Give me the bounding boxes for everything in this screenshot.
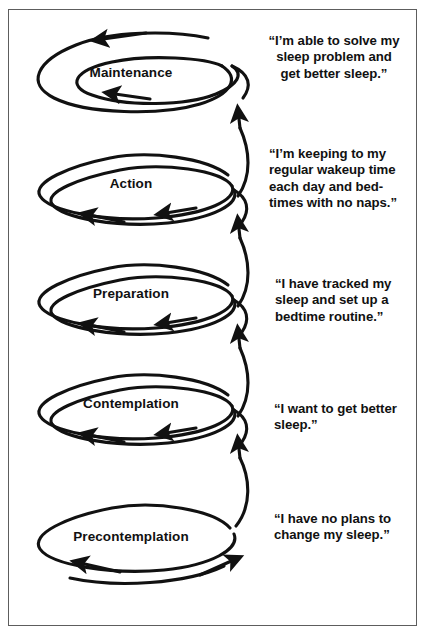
quote-line: “I want to get better: [274, 401, 424, 417]
stage-label-precontemplation: Precontemplation: [73, 529, 189, 544]
stage-label-maintenance: Maintenance: [90, 65, 173, 80]
quote-preparation: “I have tracked my sleep and set up a be…: [275, 276, 423, 325]
quote-line: “I have no plans to: [274, 511, 424, 527]
riser-preparation-to-action: [238, 220, 248, 306]
quote-line: “I have tracked my: [275, 276, 423, 292]
quote-line: “I’m keeping to my: [269, 146, 421, 162]
quote-line: sleep.”: [274, 417, 424, 433]
quote-line: get better sleep.”: [255, 66, 413, 82]
quote-line: “I’m able to solve my: [255, 33, 413, 49]
quote-line: sleep problem and: [255, 49, 413, 65]
quote-line: change my sleep.”: [274, 527, 424, 543]
quote-maintenance: “I’m able to solve my sleep problem and …: [255, 33, 413, 82]
quote-line: each day and bed-: [269, 179, 421, 195]
quote-contemplation: “I want to get better sleep.”: [274, 401, 424, 434]
stage-label-contemplation: Contemplation: [83, 396, 179, 411]
quote-action: “I’m keeping to my regular wakeup time e…: [269, 146, 421, 212]
figure-page: Maintenance Action Preparation Contempla…: [0, 0, 428, 644]
riser-action-to-maintenance: [238, 110, 248, 196]
quote-precontemplation: “I have no plans to change my sleep.”: [274, 511, 424, 544]
quote-line: regular wakeup time: [269, 162, 421, 178]
loop-precontemplation: [38, 505, 238, 583]
stage-label-preparation: Preparation: [93, 286, 169, 301]
riser-precontemplation-to-contemplation: [236, 440, 248, 526]
quote-line: sleep and set up a: [275, 292, 423, 308]
quote-line: bedtime routine.”: [275, 309, 423, 325]
riser-contemplation-to-preparation: [238, 330, 248, 416]
stage-label-action: Action: [110, 176, 153, 191]
quote-line: times with no naps.”: [269, 195, 421, 211]
